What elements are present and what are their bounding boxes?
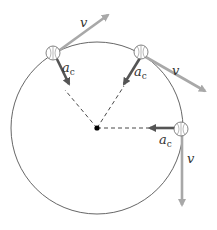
circular-motion-diagram: v ac v ac v ac — [0, 0, 217, 230]
radius-lines — [65, 86, 165, 128]
velocity-label: v — [80, 15, 88, 30]
position-right: v ac — [150, 122, 195, 205]
acceleration-label: ac — [159, 132, 172, 149]
acceleration-label: ac — [62, 60, 75, 77]
acceleration-label: ac — [134, 64, 147, 81]
velocity-label: v — [172, 63, 180, 78]
position-upper-right: v ac — [124, 45, 205, 91]
position-upper-left: v ac — [46, 15, 108, 84]
velocity-label: v — [187, 151, 195, 166]
center-point — [94, 125, 99, 130]
